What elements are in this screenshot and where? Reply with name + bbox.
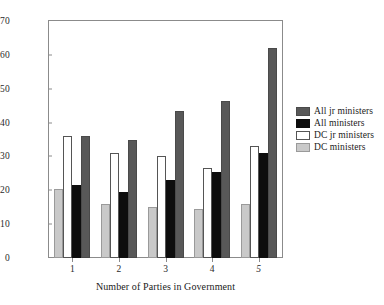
bar — [101, 204, 110, 258]
bar — [148, 207, 157, 258]
bar-group — [148, 21, 184, 258]
bar — [241, 204, 250, 258]
bar — [81, 136, 90, 258]
bar — [175, 111, 184, 258]
x-axis-title: Number of Parties in Government — [48, 281, 283, 292]
bar — [194, 209, 203, 258]
bar-group — [194, 21, 230, 258]
x-axis-tick-mark — [259, 258, 260, 262]
x-axis-tick-mark — [212, 258, 213, 262]
x-axis-tick-label: 4 — [210, 264, 215, 274]
bar — [259, 153, 268, 258]
legend-swatch-icon — [296, 131, 310, 140]
bar — [63, 136, 72, 258]
legend-item: DC jr ministers — [296, 130, 374, 140]
legend-swatch-icon — [296, 143, 310, 152]
y-axis-tick-mark — [48, 224, 52, 225]
x-axis-tick-label: 1 — [70, 264, 75, 274]
legend-swatch-icon — [296, 107, 310, 116]
y-axis-tick-label: 40 — [0, 118, 10, 128]
bar — [157, 156, 166, 258]
x-axis-tick-label: 3 — [163, 264, 168, 274]
bar-chart: 010203040506070 12345 Number of Parties … — [0, 0, 384, 305]
x-axis-tick-mark — [166, 258, 167, 262]
y-axis-tick-label: 50 — [0, 84, 10, 94]
x-axis-tick-label: 5 — [256, 264, 261, 274]
x-axis-tick-mark — [119, 258, 120, 262]
legend-item: All ministers — [296, 118, 374, 128]
y-axis-tick-mark — [48, 156, 52, 157]
bar — [72, 185, 81, 258]
legend-label: DC ministers — [314, 142, 366, 152]
legend-item: DC ministers — [296, 142, 374, 152]
y-axis: 010203040506070 — [0, 0, 48, 305]
y-axis-tick-mark — [48, 190, 52, 191]
legend-item: All jr ministers — [296, 106, 374, 116]
legend-label: All ministers — [314, 118, 365, 128]
y-axis-tick-mark — [48, 54, 52, 55]
chart-legend: All jr ministersAll ministersDC jr minis… — [296, 106, 374, 152]
y-axis-tick-label: 70 — [0, 16, 10, 26]
bar — [268, 48, 277, 258]
plot-area — [49, 21, 282, 258]
bar — [110, 153, 119, 258]
bar — [203, 168, 212, 258]
bar — [166, 180, 175, 258]
bar — [119, 192, 128, 258]
y-axis-tick-label: 60 — [0, 50, 10, 60]
y-axis-tick-label: 20 — [0, 185, 10, 195]
bar-group — [54, 21, 90, 258]
bar-group — [241, 21, 277, 258]
bar — [212, 172, 221, 258]
y-axis-tick-label: 30 — [0, 151, 10, 161]
y-axis-tick-mark — [48, 122, 52, 123]
y-axis-tick-label: 10 — [0, 219, 10, 229]
y-axis-tick-label: 0 — [5, 253, 10, 263]
bar — [250, 146, 259, 258]
x-axis-tick-label: 2 — [117, 264, 122, 274]
bar-group — [101, 21, 137, 258]
bar — [221, 101, 230, 258]
bar — [54, 189, 63, 258]
legend-label: DC jr ministers — [314, 130, 374, 140]
legend-label: All jr ministers — [314, 106, 373, 116]
y-axis-tick-mark — [48, 88, 52, 89]
bar — [128, 140, 137, 259]
x-axis-tick-mark — [72, 258, 73, 262]
legend-swatch-icon — [296, 119, 310, 128]
